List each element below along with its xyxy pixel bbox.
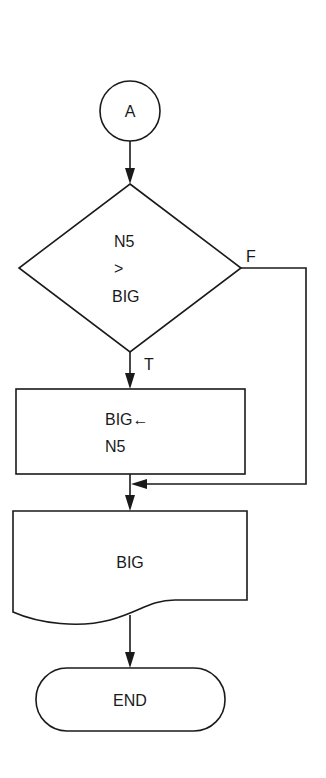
decision-node: N5 > BIG: [19, 184, 241, 352]
true-branch-label: T: [144, 356, 154, 373]
edge-process-to-output: [125, 474, 135, 511]
decision-line-2: >: [114, 260, 123, 277]
arrowhead-left-icon: [131, 479, 147, 489]
edge-decision-to-process: [125, 352, 135, 389]
arrowhead-down-icon: [125, 495, 135, 511]
process-node: BIG← N5: [16, 389, 245, 474]
process-line-1: BIG←: [105, 411, 149, 428]
false-branch-label: F: [246, 248, 256, 265]
output-document-node: BIG: [13, 511, 247, 624]
decision-line-3: BIG: [112, 288, 140, 305]
edge-output-to-terminal: [125, 615, 135, 668]
process-rectangle: [16, 389, 245, 474]
terminal-node: END: [36, 668, 225, 731]
arrowhead-down-icon: [125, 373, 135, 389]
connector-node-a: A: [100, 81, 160, 141]
output-label: BIG: [116, 554, 144, 571]
decision-line-1: N5: [114, 233, 135, 250]
process-line-2: N5: [105, 438, 126, 455]
flowchart-canvas: A N5 > BIG F T BIG← N5 BIG: [0, 0, 326, 778]
decision-diamond: [19, 184, 241, 352]
edge-connector-to-decision: [125, 141, 135, 184]
arrowhead-down-icon: [125, 652, 135, 668]
terminal-label: END: [113, 692, 147, 709]
connector-label: A: [125, 103, 136, 120]
arrowhead-down-icon: [125, 168, 135, 184]
